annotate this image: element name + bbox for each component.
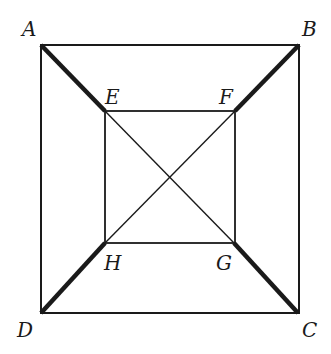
label-h: H (103, 251, 122, 275)
label-b: B (301, 17, 317, 41)
segment-hd-thick (41, 243, 105, 313)
segment-gc-thick (234, 243, 298, 313)
label-a: A (20, 17, 36, 41)
label-c: C (302, 318, 317, 342)
label-g: G (216, 251, 232, 275)
label-e: E (104, 85, 120, 109)
label-f: F (218, 85, 234, 109)
segment-bf-thick (235, 45, 299, 111)
geometry-diagram: A B C D E F G H (0, 0, 331, 354)
label-d: D (16, 318, 33, 342)
segment-ae-thick (41, 45, 105, 111)
